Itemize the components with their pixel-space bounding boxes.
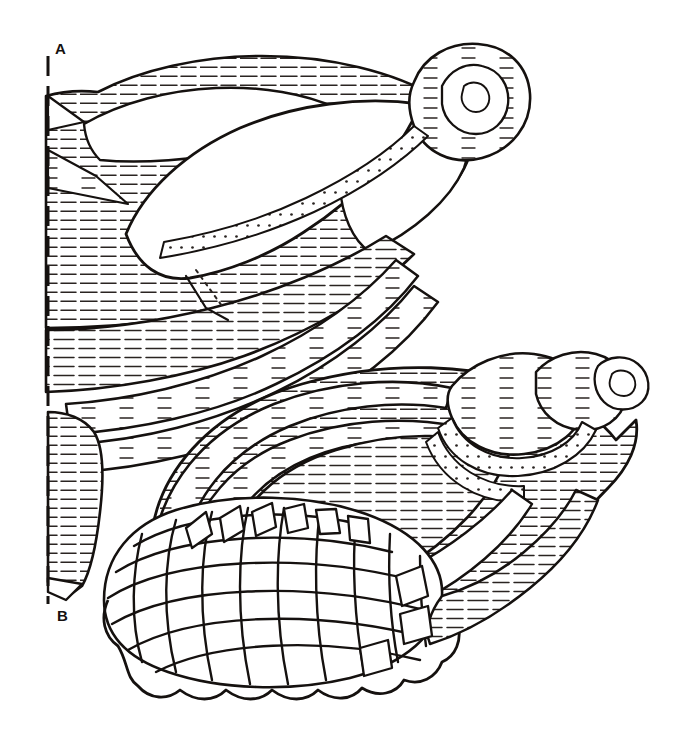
axis-label-a: A <box>55 41 66 56</box>
axis-label-b: B <box>57 608 68 623</box>
lower-shell-apex-nucleus <box>610 371 636 396</box>
engraving-plate: A B <box>0 0 692 752</box>
upper-shell-apex-nucleus <box>462 83 490 112</box>
upper-shell-siphonal-canal <box>48 412 102 598</box>
plate-artwork <box>0 0 692 752</box>
